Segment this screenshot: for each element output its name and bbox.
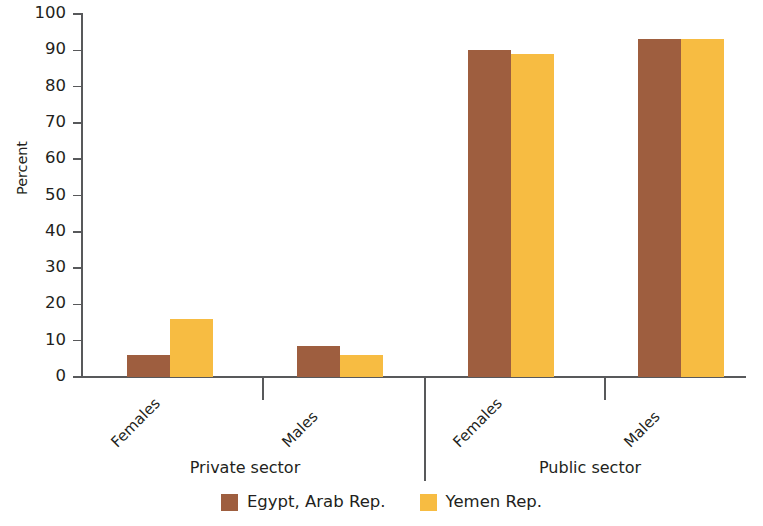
legend-label-yemen: Yemen Rep. — [446, 494, 543, 511]
x-label-public-females: Females — [449, 394, 506, 451]
bar — [468, 50, 511, 377]
x-label-public-males: Males — [620, 408, 663, 451]
bar — [511, 54, 554, 377]
legend-item-yemen: Yemen Rep. — [420, 494, 543, 511]
legend-swatch-egypt-icon — [221, 494, 238, 511]
legend-label-egypt: Egypt, Arab Rep. — [247, 494, 386, 511]
chart-legend: Egypt, Arab Rep. Yemen Rep. — [0, 494, 763, 511]
group-separator — [424, 378, 426, 481]
group-separator — [262, 378, 264, 400]
x-label-private-females: Females — [107, 394, 164, 451]
bar — [340, 355, 383, 377]
legend-swatch-yemen-icon — [420, 494, 437, 511]
bar-chart: Percent 1009080706050403020100 FemalesMa… — [0, 0, 763, 526]
group-label-private-sector: Private sector — [160, 458, 330, 477]
bar — [127, 355, 170, 377]
bar — [681, 39, 724, 377]
legend-item-egypt: Egypt, Arab Rep. — [221, 494, 386, 511]
group-separator — [604, 378, 606, 400]
bar — [297, 346, 340, 377]
bar — [170, 319, 213, 377]
x-label-private-males: Males — [278, 408, 321, 451]
group-label-public-sector: Public sector — [505, 458, 675, 477]
bars-layer — [0, 0, 763, 377]
bar — [638, 39, 681, 377]
